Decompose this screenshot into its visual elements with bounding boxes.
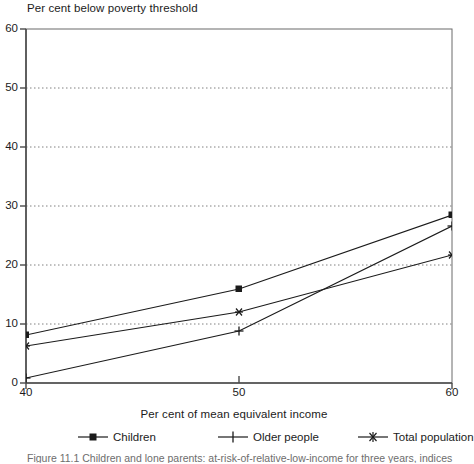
- y-tick-label-50: 50: [0, 81, 18, 93]
- x-axis-title: Per cent of mean equivalent income: [0, 408, 468, 420]
- square-marker-icon: [78, 430, 108, 444]
- legend-item-total-population[interactable]: Total population: [358, 428, 474, 446]
- legend-label-total-population: Total population: [393, 431, 474, 443]
- y-tick-marks: [20, 29, 26, 383]
- legend-label-children: Children: [113, 431, 156, 443]
- y-tick-label-60: 60: [0, 22, 18, 34]
- legend-label-older-people: Older people: [253, 431, 319, 443]
- legend-item-children[interactable]: Children: [78, 428, 156, 446]
- asterisk-marker-icon: [358, 430, 388, 444]
- chart-legend: Children Older people Total populati: [0, 428, 468, 448]
- plus-marker-icon: [218, 430, 248, 444]
- legend-item-older-people[interactable]: Older people: [218, 428, 319, 446]
- figure-caption: Figure 11.1 Children and lone parents: a…: [27, 452, 457, 463]
- y-tick-label-40: 40: [0, 140, 18, 152]
- y-tick-label-10: 10: [0, 317, 18, 329]
- y-tick-label-20: 20: [0, 258, 18, 270]
- y-tick-label-30: 30: [0, 199, 18, 211]
- x-tick-label-50: 50: [227, 386, 251, 398]
- x-tick-label-60: 60: [440, 386, 464, 398]
- x-tick-label-40: 40: [14, 386, 38, 398]
